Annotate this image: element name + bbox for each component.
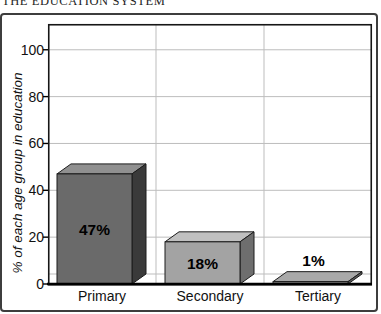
data-label-primary: 47% (79, 221, 110, 238)
chart-frame: % of each age group in education 0204060… (0, 13, 378, 312)
data-label-secondary: 18% (187, 255, 218, 272)
y-tick-label-20: 20 (2, 228, 44, 246)
x-axis-label-primary: Primary (48, 288, 156, 305)
x-axis-label-secondary: Secondary (156, 288, 264, 305)
bar-primary-side-face (132, 164, 146, 284)
y-axis-title: % of each age group in education (9, 33, 27, 313)
y-tick-label-0: 0 (2, 275, 44, 293)
page-heading-text: THE EDUCATION SYSTEM (2, 0, 252, 8)
plot-area: 47%18%1% (48, 24, 372, 286)
page-heading: THE EDUCATION SYSTEM (2, 0, 252, 8)
y-tick-label-100: 100 (2, 41, 44, 59)
data-label-tertiary: 1% (302, 252, 325, 269)
x-axis-label-tertiary: Tertiary (264, 288, 372, 305)
bar-secondary-top-face (165, 232, 254, 242)
y-tick-label-60: 60 (2, 134, 44, 152)
bar-tertiary-top-face (273, 272, 362, 282)
bar-primary-top-face (57, 164, 146, 174)
y-tick-label-80: 80 (2, 88, 44, 106)
y-tick-label-40: 40 (2, 181, 44, 199)
